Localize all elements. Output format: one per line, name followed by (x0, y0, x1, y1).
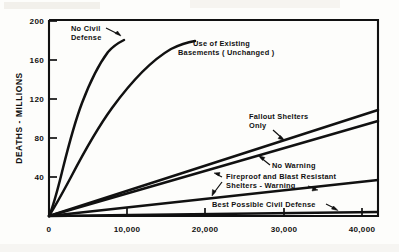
ann-fireproof-blast-line2: Shelters - Warning (226, 181, 296, 190)
annotation-no-civil-defense: No Civil Defense (71, 24, 121, 42)
ann-fallout-shelters-line2: Only (249, 121, 267, 130)
ann-existing-basements-line2: Basements ( Unchanged ) (178, 48, 275, 57)
ann-best-possible-line1: Best Possible Civil Defense (212, 200, 316, 209)
ann-no-civil-defense-arrowhead (115, 31, 121, 36)
annotation-existing-basements: Use of Existing Basements ( Unchanged ) (178, 39, 275, 57)
scan-artifact-top-left (4, 2, 100, 9)
ann-no-civil-defense-line1: No Civil (71, 24, 101, 33)
x-tick-label-0: 0 (47, 225, 52, 234)
x-tick-label-20000: 20,000 (192, 225, 219, 234)
y-tick-label-160: 160 (30, 56, 45, 65)
x-tick-label-10000: 10,000 (114, 225, 141, 234)
y-axis-title: DEATHS - MILLIONS (14, 72, 24, 163)
scan-artifact-top-right (190, 0, 340, 8)
series-existing-basements (49, 41, 195, 216)
y-tick-label-200: 200 (30, 17, 45, 26)
ann-fireproof-blast-arrowhead-left (214, 173, 220, 177)
y-axis-ticks (49, 21, 57, 177)
series-fireproof-blast-shelters-warning (49, 180, 378, 216)
scan-artifact-bottom (0, 244, 399, 252)
annotation-no-warning: No Warning (259, 156, 316, 171)
y-tick-label-40: 40 (34, 173, 44, 182)
chart-figure: 200 160 120 80 40 0 10,000 20,000 30,000… (0, 0, 399, 252)
chart-canvas: 200 160 120 80 40 0 10,000 20,000 30,000… (0, 0, 399, 252)
x-tick-label-40000: 40,000 (349, 225, 376, 234)
data-series-group (49, 40, 378, 216)
annotation-best-possible: Best Possible Civil Defense (212, 200, 338, 211)
series-no-civil-defense (49, 40, 124, 216)
ann-existing-basements-line1: Use of Existing (193, 39, 250, 48)
y-tick-label-80: 80 (34, 134, 44, 143)
ann-no-warning-line1: No Warning (272, 161, 316, 170)
ann-fireproof-blast-line1: Fireproof and Blast Resistant (226, 172, 337, 181)
x-tick-label-30000: 30,000 (271, 225, 298, 234)
y-tick-label-120: 120 (30, 95, 45, 104)
ann-no-civil-defense-line2: Defense (71, 33, 102, 42)
ann-fallout-shelters-arrowhead (278, 136, 285, 141)
ann-fallout-shelters-line1: Fallout Shelters (249, 112, 308, 121)
